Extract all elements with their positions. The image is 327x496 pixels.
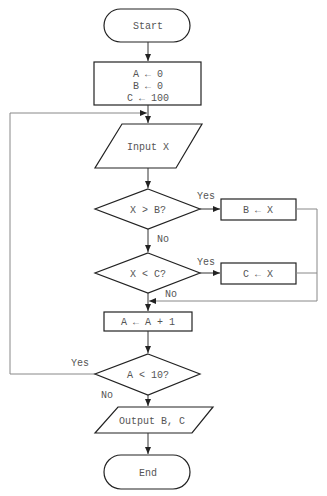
input-label: Input X: [127, 142, 169, 153]
cond-a-node: A < 10?: [95, 354, 200, 395]
start-node: Start: [104, 9, 190, 42]
cond-a-no-label: No: [101, 390, 113, 401]
output-label: Output B, C: [119, 416, 185, 427]
cond-b-label: X > B?: [130, 205, 166, 216]
set-c-node: C ← X: [221, 263, 296, 284]
cond-a-label: A < 10?: [127, 370, 169, 381]
start-label: Start: [133, 21, 163, 32]
cond-b-yes-label: Yes: [197, 191, 215, 202]
cond-c-label: X < C?: [130, 269, 166, 280]
cond-c-no-label: No: [165, 289, 177, 300]
set-c-label: C ← X: [243, 269, 273, 280]
init-line-3: C ← 100: [127, 93, 169, 104]
cond-b-no-label: No: [157, 234, 169, 245]
cond-a-yes-label: Yes: [71, 358, 89, 369]
init-node: A ← 0 B ← 0 C ← 100: [94, 62, 201, 105]
set-b-node: B ← X: [221, 199, 296, 220]
cond-c-node: X < C?: [95, 253, 200, 293]
end-node: End: [104, 455, 190, 489]
cond-b-node: X > B?: [95, 189, 200, 229]
cond-c-yes-label: Yes: [197, 257, 215, 268]
inc-a-node: A ← A + 1: [104, 312, 192, 331]
inc-a-label: A ← A + 1: [121, 317, 175, 328]
output-node: Output B, C: [95, 407, 213, 433]
init-line-2: B ← 0: [133, 81, 163, 92]
init-line-1: A ← 0: [133, 69, 163, 80]
edge-setb-merge: [296, 209, 317, 301]
set-b-label: B ← X: [243, 205, 273, 216]
flowchart: Start A ← 0 B ← 0 C ← 100 Input X X > B?…: [0, 0, 327, 496]
end-label: End: [139, 468, 157, 479]
input-node: Input X: [95, 124, 202, 168]
